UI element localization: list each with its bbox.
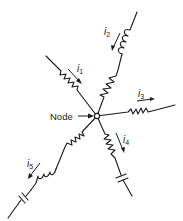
label-i4: i4 [123, 134, 129, 146]
branch-i1: i1 [46, 56, 97, 116]
capacitor-c5 [8, 190, 31, 218]
label-i1: i1 [77, 63, 83, 75]
branch-i3: i3 [97, 88, 175, 116]
branch-i4: i4 [97, 116, 132, 196]
node-junction [94, 113, 99, 118]
label-i3: i3 [138, 88, 144, 100]
resistor-r2 [97, 54, 122, 116]
resistor-r4 [97, 116, 121, 175]
node-arrow-icon [88, 114, 94, 119]
resistor-r3 [97, 105, 175, 116]
node-label: Node [50, 111, 73, 122]
inductor-l5 [31, 169, 56, 190]
resistor-r1 [46, 56, 97, 116]
capacitor-c4 [116, 174, 132, 196]
inductor-l2 [118, 12, 137, 54]
resistor-r5 [56, 116, 97, 169]
circuit-diagram: i1 i2 i3 i4 [0, 0, 183, 221]
label-i2: i2 [104, 26, 110, 38]
label-i5: i5 [27, 158, 33, 170]
branch-i5: i5 [8, 116, 97, 218]
node-pointer: Node [50, 111, 94, 122]
branch-i2: i2 [97, 12, 137, 116]
